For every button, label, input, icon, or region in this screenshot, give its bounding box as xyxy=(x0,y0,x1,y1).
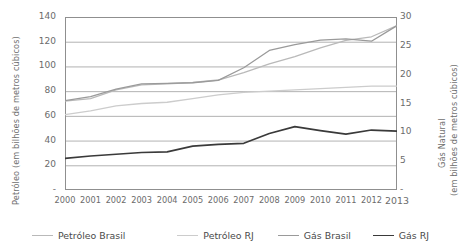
x-tick-2011: 2011 xyxy=(333,196,359,205)
legend-item-g-s-rj[interactable]: Gás RJ xyxy=(373,230,429,241)
x-tick-2000: 2000 xyxy=(52,196,78,205)
legend-swatch-icon xyxy=(32,235,53,236)
plot-frame xyxy=(66,18,397,190)
y-tick-left: 140 xyxy=(30,12,56,21)
y-tick-left: - xyxy=(30,185,56,194)
x-tick-2007: 2007 xyxy=(231,196,257,205)
chart-legend: Petróleo BrasilPetróleo RJGás BrasilGás … xyxy=(0,226,461,244)
plot-area xyxy=(65,17,397,190)
x-tick-2008: 2008 xyxy=(256,196,282,205)
y-tick-left: 100 xyxy=(30,61,56,70)
y-axis-title-right-line2: (em bilhões de metros cúbicos) xyxy=(449,64,459,196)
y-tick-right: 20 xyxy=(400,70,426,79)
y-tick-right: 5 xyxy=(400,156,426,165)
y-tick-right: 15 xyxy=(400,99,426,108)
x-tick-2010: 2010 xyxy=(307,196,333,205)
x-tick-2013: 2013 xyxy=(384,196,410,205)
legend-swatch-icon xyxy=(373,235,394,236)
chart-figure: Petróleo (em bilhões de metros cúbicos) … xyxy=(0,0,461,250)
legend-item-g-s-brasil[interactable]: Gás Brasil xyxy=(278,230,351,241)
legend-label: Gás RJ xyxy=(399,230,429,241)
y-tick-left: 120 xyxy=(30,37,56,46)
legend-item-petr-leo-brasil[interactable]: Petróleo Brasil xyxy=(32,230,125,241)
y-axis-title-left: Petróleo (em bilhões de metros cúbicos) xyxy=(11,36,21,205)
y-tick-left: 60 xyxy=(30,111,56,120)
legend-label: Petróleo RJ xyxy=(203,230,254,241)
y-axis-title-right-line1: Gás Natural xyxy=(437,118,447,168)
x-tick-2001: 2001 xyxy=(78,196,104,205)
series-line-g-s-brasil xyxy=(65,26,397,101)
y-tick-right: 30 xyxy=(400,12,426,21)
legend-item-petr-leo-rj[interactable]: Petróleo RJ xyxy=(177,230,254,241)
legend-label: Gás Brasil xyxy=(304,230,351,241)
x-tick-2012: 2012 xyxy=(358,196,384,205)
x-tick-2005: 2005 xyxy=(180,196,206,205)
x-tick-2006: 2006 xyxy=(205,196,231,205)
legend-swatch-icon xyxy=(278,235,299,236)
x-tick-2004: 2004 xyxy=(154,196,180,205)
y-tick-right: - xyxy=(400,185,426,194)
y-tick-right: 10 xyxy=(400,127,426,136)
series-line-g-s-rj xyxy=(65,127,397,159)
y-tick-left: 80 xyxy=(30,86,56,95)
series-canvas xyxy=(65,17,397,190)
y-tick-left: 20 xyxy=(30,160,56,169)
x-tick-2009: 2009 xyxy=(282,196,308,205)
x-tick-2002: 2002 xyxy=(103,196,129,205)
legend-label: Petróleo Brasil xyxy=(58,230,125,241)
y-tick-left: 40 xyxy=(30,136,56,145)
legend-swatch-icon xyxy=(177,235,198,236)
x-tick-2003: 2003 xyxy=(129,196,155,205)
y-tick-right: 25 xyxy=(400,41,426,50)
